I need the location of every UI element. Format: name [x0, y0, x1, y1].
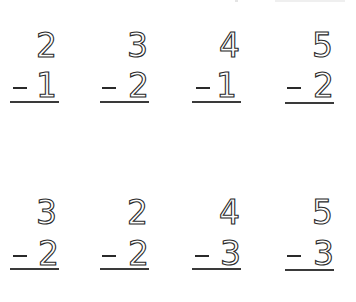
minuend: 3 [36, 193, 57, 232]
subtraction-problem: 4 1 [192, 28, 244, 108]
subtraction-problem: 4 3 [192, 195, 244, 275]
subtrahend: 2 [128, 66, 149, 105]
answer-line [285, 269, 334, 271]
answer-line [192, 101, 241, 103]
minus-sign [287, 87, 301, 89]
minuend: 4 [219, 193, 240, 232]
answer-line [10, 101, 59, 103]
subtraction-problem: 3 2 [10, 195, 62, 275]
subtraction-problem: 2 2 [100, 195, 152, 275]
answer-line [100, 268, 149, 270]
subtraction-problem: 3 2 [100, 28, 152, 108]
minus-sign [287, 255, 301, 257]
minus-sign [102, 87, 116, 89]
answer-line [10, 268, 59, 270]
minuend: 2 [36, 26, 57, 65]
subtrahend: 2 [313, 66, 334, 105]
minus-sign [13, 255, 27, 257]
subtrahend: 3 [313, 234, 334, 273]
subtrahend: 1 [216, 66, 237, 105]
minus-sign [195, 255, 209, 257]
answer-line [285, 102, 334, 104]
subtraction-problem: 5 3 [285, 195, 337, 275]
minus-sign [102, 255, 116, 257]
minuend: 5 [312, 193, 333, 232]
subtraction-problem: 5 2 [285, 28, 337, 108]
answer-line [192, 268, 241, 270]
answer-line [100, 101, 149, 103]
subtrahend: 1 [36, 66, 57, 105]
minuend: 2 [127, 193, 148, 232]
scan-artifact [235, 0, 238, 2]
minuend: 3 [127, 26, 148, 65]
scan-artifact [275, 0, 345, 2]
minus-sign [13, 87, 27, 89]
minus-sign [196, 87, 210, 89]
minuend: 4 [219, 26, 240, 65]
minuend: 5 [312, 26, 333, 65]
subtraction-problem: 2 1 [10, 28, 62, 108]
